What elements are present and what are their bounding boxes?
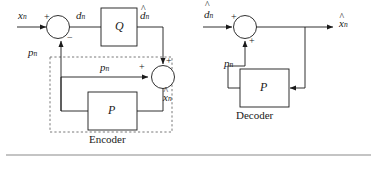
encoder-sum2-plus-left-sign: + bbox=[139, 62, 145, 72]
decoder-prediction-label: pn bbox=[224, 58, 233, 69]
encoder-sum1-plus-sign: + bbox=[44, 12, 50, 22]
encoder-recon-label: ^xn bbox=[163, 92, 172, 103]
encoder-sum2-plus-top-sign: + bbox=[166, 56, 172, 66]
encoder-prediction-label-outer: pn bbox=[28, 47, 37, 58]
figure-canvas: xn + − dn Q ^dn pn pn + + ^xn P Encoder … bbox=[0, 0, 377, 170]
decoder-input-label: ^dn bbox=[204, 9, 213, 20]
encoder-sum1-minus-sign: − bbox=[67, 33, 73, 43]
decoder-output-hat-accent: ^ bbox=[339, 12, 343, 22]
decoder-predictor-label: P bbox=[260, 81, 267, 93]
encoder-predictor-label: P bbox=[108, 104, 115, 116]
encoder-recon-hat-accent: ^ bbox=[163, 86, 167, 96]
encoder-prediction-label-inner: pn bbox=[100, 62, 109, 73]
decoder-sum-plus-left-sign: + bbox=[231, 12, 237, 22]
quantizer-label: Q bbox=[115, 20, 124, 32]
encoder-caption: Encoder bbox=[89, 134, 126, 145]
encoder-diff-label: dn bbox=[76, 10, 85, 21]
decoder-sum-plus-bottom-sign: + bbox=[249, 36, 255, 46]
decoder-output-label: ^xn bbox=[339, 18, 348, 29]
decoder-input-hat-accent: ^ bbox=[205, 0, 209, 10]
encoder-quantized-label: ^dn bbox=[140, 10, 149, 21]
decoder-caption: Decoder bbox=[236, 110, 273, 121]
quantized-hat-accent: ^ bbox=[141, 4, 145, 14]
diagram-svg bbox=[0, 0, 377, 170]
encoder-input-label: xn bbox=[18, 10, 27, 21]
